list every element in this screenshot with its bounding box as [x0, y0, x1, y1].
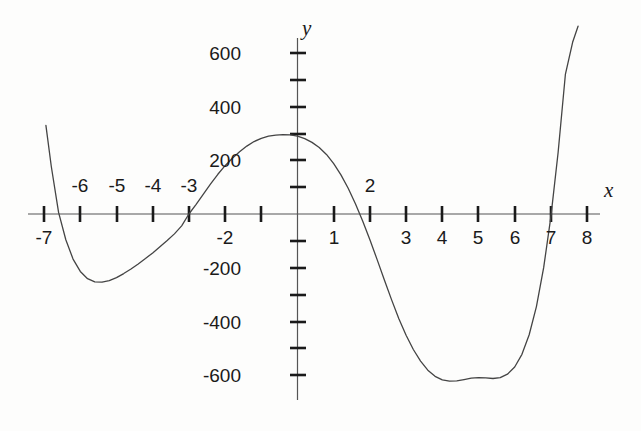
y-tick-label-200: 200	[161, 151, 241, 170]
x-tick-label-8: 8	[576, 228, 598, 247]
x-tick-label-minus-3: -3	[175, 176, 203, 195]
x-tick-label-1: 1	[323, 228, 345, 247]
y-tick-label-minus-600: -600	[161, 366, 241, 385]
x-axis-label: x	[604, 180, 613, 201]
x-tick-label-5: 5	[467, 228, 489, 247]
function-curve	[46, 26, 578, 381]
y-tick-label-400: 400	[161, 98, 241, 117]
y-tick-label-600: 600	[161, 44, 241, 63]
x-tick-label-4: 4	[431, 228, 453, 247]
x-tick-label-3: 3	[395, 228, 417, 247]
x-tick-label-minus-6: -6	[66, 176, 94, 195]
x-tick-label-6: 6	[504, 228, 526, 247]
plot-canvas	[0, 0, 641, 431]
x-tick-label-minus-7: -7	[30, 228, 58, 247]
y-tick-label-minus-200: -200	[161, 259, 241, 278]
y-tick-label-minus-400: -400	[161, 313, 241, 332]
x-tick-label-minus-2: -2	[211, 228, 239, 247]
y-axis-label: y	[302, 18, 311, 39]
function-graph-figure: 600 400 200 -200 -400 -600 -6 -5 -4 -3 2…	[0, 0, 641, 431]
x-tick-label-7: 7	[540, 228, 562, 247]
x-tick-label-minus-4: -4	[139, 176, 167, 195]
x-tick-label-2: 2	[359, 176, 381, 195]
x-tick-label-minus-5: -5	[103, 176, 131, 195]
